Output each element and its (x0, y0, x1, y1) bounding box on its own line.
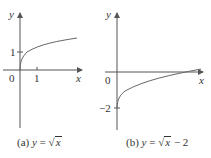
panel-a-curve (20, 38, 77, 70)
panel-a-caption-eq: = (37, 136, 49, 148)
panel-b-y-label: y (105, 8, 111, 20)
panel-b-curve (117, 69, 201, 108)
panel-b-caption-prefix: (b) (126, 136, 142, 148)
panel-a-caption-radicand: x (55, 136, 62, 148)
panel-a-y-tick-label: 1 (10, 46, 16, 58)
panel-b-caption-eq: = (146, 136, 158, 148)
panel-a-caption: (a) y = √x (17, 136, 62, 148)
panel-b-x-label: x (198, 74, 204, 86)
panel-a-x-tick-label: 1 (34, 72, 40, 84)
panel-b-graph: y x 0 −2 (99, 8, 204, 130)
panel-a-caption-prefix: (a) (17, 136, 32, 148)
panel-b-caption: (b) y = √x − 2 (126, 136, 188, 148)
panel-a-y-label: y (8, 8, 14, 20)
panel-b-caption-suffix: − 2 (171, 136, 188, 148)
graphs-canvas: y x 0 1 1 y x 0 −2 (0, 0, 211, 158)
panel-b-origin-label: 0 (105, 74, 111, 86)
panel-a-graph: y x 0 1 1 (3, 8, 82, 128)
panel-a-x-label: x (75, 72, 81, 84)
panel-b-y-tick-label: −2 (99, 102, 111, 114)
panel-a-origin-label: 0 (9, 72, 15, 84)
